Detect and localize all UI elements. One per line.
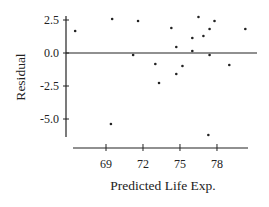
x-axis: 69727578: [73, 144, 248, 171]
data-point: [175, 73, 178, 76]
data-point: [154, 63, 157, 66]
y-tick-label: 2.5: [44, 13, 59, 27]
y-axis: 2.50.0-2.5-5.0: [40, 13, 69, 137]
data-point: [110, 123, 113, 126]
data-point: [208, 28, 211, 31]
x-tick-label: 75: [174, 157, 186, 171]
data-point: [137, 20, 140, 23]
data-point: [181, 65, 184, 68]
y-tick-label: 0.0: [44, 46, 59, 60]
data-point: [158, 82, 161, 85]
data-point: [170, 27, 173, 30]
data-point: [202, 35, 205, 38]
data-point: [197, 16, 200, 19]
data-point: [191, 37, 194, 40]
data-point: [175, 46, 178, 49]
data-point: [132, 54, 135, 57]
data-point: [207, 134, 210, 137]
x-tick-label: 69: [100, 157, 112, 171]
data-point: [74, 30, 77, 33]
data-point: [244, 28, 247, 31]
y-tick-label: -2.5: [40, 79, 59, 93]
y-axis-title: Residual: [13, 53, 28, 100]
y-tick-label: -5.0: [40, 112, 59, 126]
data-point: [208, 54, 211, 57]
data-point: [228, 64, 231, 67]
x-tick-label: 78: [211, 157, 223, 171]
data-point: [111, 18, 114, 21]
x-axis-title: Predicted Life Exp.: [110, 178, 215, 193]
data-point: [213, 20, 216, 23]
x-tick-label: 72: [137, 157, 149, 171]
data-points: [74, 16, 247, 137]
data-point: [191, 50, 194, 53]
residual-plot: 2.50.0-2.5-5.0 69727578 Residual Predict…: [0, 0, 269, 207]
